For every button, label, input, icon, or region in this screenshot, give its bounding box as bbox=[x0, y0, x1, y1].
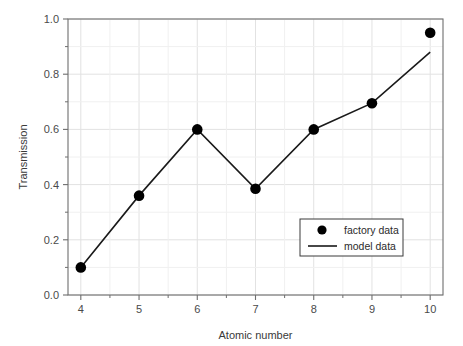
svg-text:8: 8 bbox=[311, 303, 317, 315]
line-chart: 45678910 0.00.20.40.60.81.0 Atomic numbe… bbox=[0, 0, 463, 346]
svg-text:7: 7 bbox=[252, 303, 258, 315]
chart-figure: 45678910 0.00.20.40.60.81.0 Atomic numbe… bbox=[0, 0, 463, 346]
svg-text:6: 6 bbox=[194, 303, 200, 315]
legend-label-model-data: model data bbox=[344, 240, 396, 252]
svg-text:0.0: 0.0 bbox=[44, 289, 59, 301]
svg-text:0.8: 0.8 bbox=[44, 68, 59, 80]
svg-text:1.0: 1.0 bbox=[44, 13, 59, 25]
legend-factory-marker-icon bbox=[317, 225, 326, 234]
svg-text:9: 9 bbox=[369, 303, 375, 315]
legend-label-factory-data: factory data bbox=[344, 224, 399, 236]
svg-text:5: 5 bbox=[136, 303, 142, 315]
svg-text:0.6: 0.6 bbox=[44, 123, 59, 135]
chart-legend: factory data model data bbox=[300, 219, 403, 256]
y-axis-title: Transmission bbox=[17, 125, 29, 190]
svg-text:4: 4 bbox=[78, 303, 84, 315]
svg-text:10: 10 bbox=[424, 303, 436, 315]
svg-text:0.2: 0.2 bbox=[44, 234, 59, 246]
x-axis-title: Atomic number bbox=[219, 329, 293, 341]
svg-text:0.4: 0.4 bbox=[44, 179, 59, 191]
